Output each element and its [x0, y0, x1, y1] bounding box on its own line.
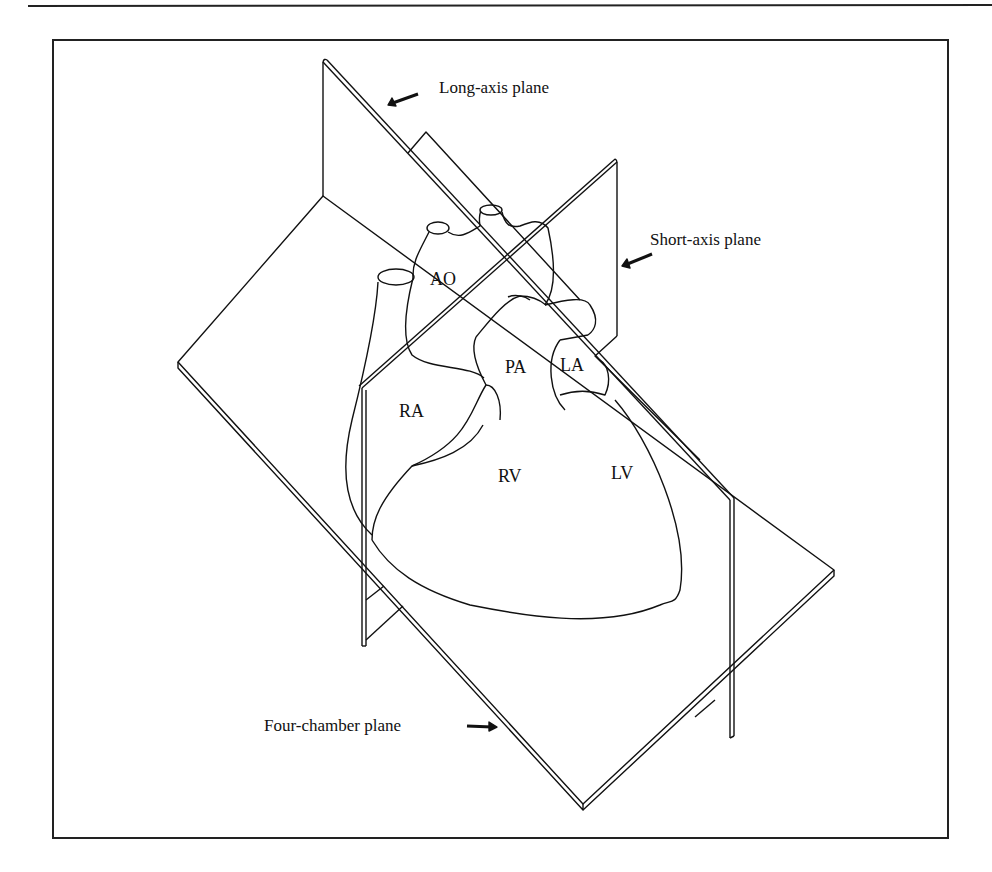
chamber-label-la: LA [560, 355, 584, 375]
short-axis-arrow-icon [622, 254, 652, 268]
chamber-label-pa: PA [505, 357, 526, 377]
four-chamber-arrow-icon [467, 722, 497, 731]
long-axis-plane [323, 59, 734, 738]
chamber-label-lv: LV [611, 463, 633, 483]
chamber-label-ra: RA [399, 401, 424, 421]
short-axis-label: Short-axis plane [650, 230, 761, 249]
chamber-label-ao: AO [430, 269, 456, 289]
long-axis-label: Long-axis plane [439, 78, 549, 97]
chamber-label-rv: RV [498, 466, 522, 486]
top-rule [28, 5, 992, 6]
long-axis-arrow-icon [388, 94, 418, 106]
heart-planes-diagram: Long-axis plane Short-axis plane Four-ch… [0, 0, 992, 872]
figure-frame [53, 40, 948, 838]
four-chamber-label: Four-chamber plane [264, 716, 401, 735]
